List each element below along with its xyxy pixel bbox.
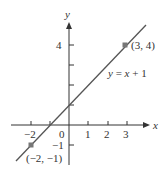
x-tick-label: 1: [85, 128, 91, 140]
line-chart: x −2 0 1 2 3 y 4 −1 (3, 4) (−2, −1) y = …: [0, 0, 166, 177]
point-3-4: [123, 43, 128, 48]
y-tick-label: −1: [52, 139, 64, 151]
y-axis-label: y: [64, 8, 70, 20]
x-tick-label: 2: [104, 128, 110, 140]
y-axis: y 4 −1: [52, 8, 74, 165]
equation-rest: + 1: [130, 67, 147, 79]
equation-eq: =: [113, 67, 125, 79]
equation-label: y = x + 1: [107, 67, 147, 79]
x-axis: x −2 0 1 2 3: [11, 119, 158, 140]
x-tick-label: 3: [123, 128, 129, 140]
y-axis-arrow-icon: [66, 22, 72, 29]
x-axis-arrow-icon: [143, 122, 150, 128]
x-axis-label: x: [152, 119, 158, 131]
point-label-neg2-neg1: (−2, −1): [26, 152, 63, 165]
point-neg2-neg1: [29, 143, 34, 148]
y-tick-label: 4: [56, 39, 62, 51]
x-tick-label: −2: [24, 128, 36, 140]
point-label-3-4: (3, 4): [131, 39, 155, 52]
